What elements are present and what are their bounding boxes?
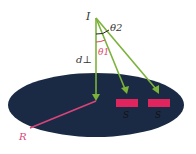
label-sample-2: S: [155, 110, 161, 120]
angle-arc-theta1: [96, 40, 105, 42]
label-source: I: [85, 10, 91, 23]
label-sample-1: S: [123, 110, 129, 120]
sample-1: [116, 99, 138, 107]
label-perp-distance: d⊥: [76, 54, 92, 65]
illumination-diagram: I θ2 θ1 d⊥ S S R: [0, 0, 196, 154]
sample-2: [148, 99, 170, 107]
label-radius: R: [18, 131, 27, 142]
label-theta1: θ1: [98, 47, 109, 57]
label-theta2: θ2: [110, 22, 122, 33]
